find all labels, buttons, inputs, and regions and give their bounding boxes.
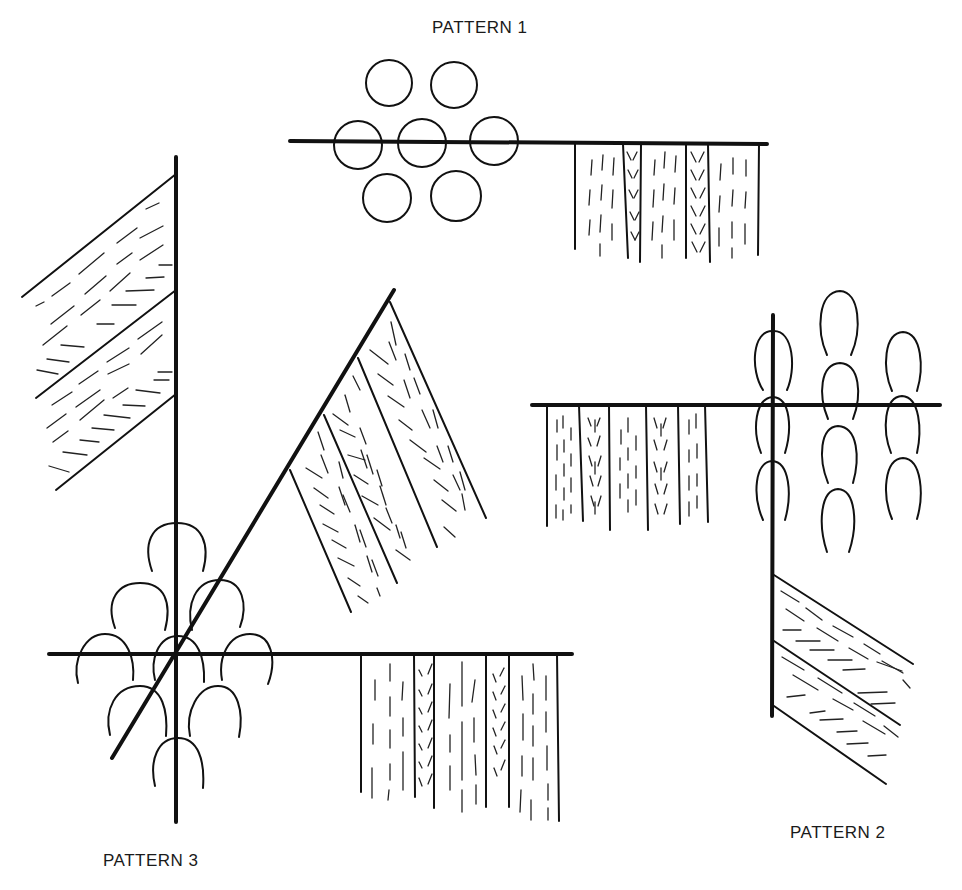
- pattern-1-horizontal-line: [290, 141, 767, 144]
- pattern-3-diagonal-line: [112, 290, 394, 758]
- pattern-3-diagonal-striped-panel: [290, 302, 486, 612]
- pattern-2-vertical-line: [772, 315, 773, 716]
- pattern-2-loops: [755, 291, 921, 552]
- pattern-2-figure: [532, 291, 940, 784]
- pattern-3-left-striped-panel: [22, 174, 176, 490]
- pattern-2-vertical-striped-panel: [547, 405, 708, 530]
- pattern-2-diagonal-striped-panel: [774, 575, 913, 784]
- diagram-canvas: [0, 0, 962, 890]
- pattern-1-figure: [290, 60, 767, 262]
- pattern-1-striped-panel: [575, 143, 759, 262]
- pattern-3-figure: [22, 157, 572, 822]
- pattern-3-vertical-striped-panel: [361, 654, 559, 821]
